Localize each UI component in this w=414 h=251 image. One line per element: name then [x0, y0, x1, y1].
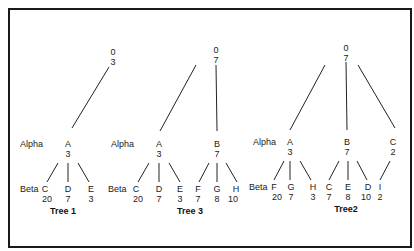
t2-leaf-g-name: G	[287, 182, 294, 192]
t3-beta-label: Beta	[108, 184, 127, 194]
t3-root-value: 7	[213, 55, 218, 65]
t1-leaf-c-value: 20	[42, 194, 52, 204]
edge-t3-b-h	[226, 163, 237, 182]
edge-t2-c-i	[380, 161, 390, 180]
edge-t1-a-c	[47, 163, 58, 182]
t2-root-name: 0	[343, 43, 348, 53]
t2-leaf-h-name: H	[310, 182, 317, 192]
t2-node-a-name: A	[287, 137, 293, 147]
t3-leaf-c-name: C	[133, 184, 140, 194]
edge-t3-a-c	[138, 163, 149, 182]
t3-leaf-g-value: 8	[214, 194, 219, 204]
t3-leaf-g-name: G	[213, 184, 220, 194]
t2-leaf-f-value: 20	[272, 192, 282, 202]
t2-leaf-i-value: 2	[377, 192, 382, 202]
t2-leaf-f-name: F	[271, 182, 277, 192]
t1-alpha-label: Alpha	[20, 139, 43, 149]
t1-leaf-d-value: 7	[65, 194, 70, 204]
edge-t2-root-a	[290, 65, 325, 130]
t3-leaf-d-value: 7	[156, 194, 161, 204]
t1-title: Tree 1	[50, 206, 76, 216]
t1-node-a-name: A	[65, 139, 71, 149]
t2-node-c-name: C	[390, 137, 397, 147]
edge-t2-b-d	[357, 161, 367, 180]
t3-leaf-d-name: D	[156, 184, 163, 194]
t1-leaf-e-value: 3	[88, 194, 93, 204]
t2-title: Tree2	[334, 204, 358, 214]
edge-t1-root-a	[72, 67, 109, 128]
t3-node-b-name: B	[214, 139, 220, 149]
t2-node-b-value: 7	[344, 147, 349, 157]
t1-beta-label: Beta	[20, 184, 39, 194]
edge-t3-b-f	[199, 163, 209, 182]
t2-node-a-value: 3	[287, 147, 292, 157]
t2-leaf-d-value: 10	[361, 192, 371, 202]
t2-leaf-h-value: 3	[310, 192, 315, 202]
t2-root-value: 7	[343, 53, 348, 63]
t3-node-a-value: 3	[156, 149, 161, 159]
edge-t1-a-e	[78, 163, 89, 182]
t2-alpha-label: Alpha	[253, 137, 276, 147]
t3-node-a-name: A	[156, 139, 162, 149]
t2-leaf-e-name: E	[345, 182, 351, 192]
t3-node-b-value: 7	[214, 149, 219, 159]
t2-leaf-i-name: I	[379, 182, 382, 192]
t2-leaf-d-name: D	[365, 182, 372, 192]
edge-t3-a-e	[169, 163, 180, 182]
t1-leaf-e-name: E	[88, 184, 94, 194]
t2-leaf-e-value: 8	[345, 192, 350, 202]
t1-node-a-value: 3	[65, 149, 70, 159]
t3-leaf-e-name: E	[177, 184, 183, 194]
edge-t3-root-b	[216, 65, 217, 131]
edge-t2-a-f	[274, 161, 284, 180]
t3-leaf-c-value: 20	[133, 194, 143, 204]
edge-t3-root-a	[160, 65, 196, 131]
t3-leaf-f-name: F	[195, 184, 201, 194]
t3-alpha-label: Alpha	[111, 139, 134, 149]
t1-leaf-c-name: C	[42, 184, 49, 194]
t2-leaf-c-name: C	[326, 182, 333, 192]
edge-t2-a-h	[300, 161, 311, 180]
t1-root-name: 0	[110, 47, 115, 57]
edge-t2-b-c	[329, 161, 339, 180]
t2-node-b-name: B	[344, 137, 350, 147]
t3-leaf-h-value: 10	[228, 194, 238, 204]
t3-leaf-e-value: 3	[177, 194, 182, 204]
t2-leaf-g-value: 7	[288, 192, 293, 202]
edge-t2-root-c	[358, 65, 395, 128]
t1-leaf-d-name: D	[65, 184, 72, 194]
t3-leaf-h-name: H	[233, 184, 240, 194]
t2-leaf-c-value: 7	[326, 192, 331, 202]
t3-title: Tree 3	[177, 206, 203, 216]
t2-node-c-value: 2	[390, 147, 395, 157]
t3-leaf-f-value: 7	[195, 194, 200, 204]
t3-root-name: 0	[213, 45, 218, 55]
t2-beta-label: Beta	[249, 182, 268, 192]
edge-t2-root-b	[346, 62, 347, 130]
t1-root-value: 3	[110, 57, 115, 67]
